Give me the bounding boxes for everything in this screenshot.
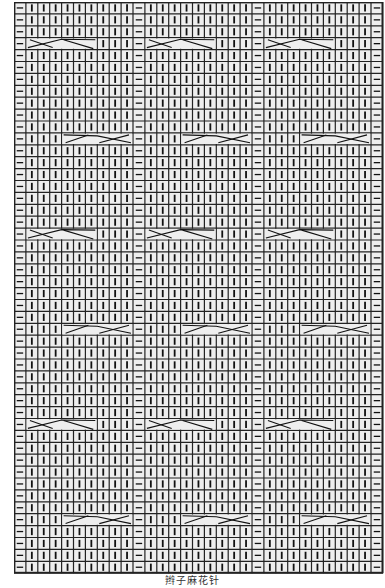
knitting-chart-grid xyxy=(14,2,384,574)
chart-caption: 辫子麻花针 xyxy=(0,574,385,588)
